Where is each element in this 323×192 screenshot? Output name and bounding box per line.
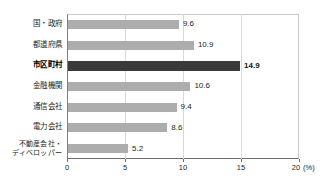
x-tick-mark-15: [241, 159, 242, 162]
x-tick-mark-0: [67, 159, 68, 162]
bar-2: [68, 61, 240, 71]
category-label-0: 国・政府: [0, 14, 65, 35]
category-label-1: 都道府県: [0, 35, 65, 56]
category-label-5: 電力会社: [0, 118, 65, 139]
bar-value-3: 10.6: [194, 82, 210, 90]
x-axis: 0 5 10 15 20 (%): [0, 159, 323, 179]
bar-value-2: 14.9: [244, 62, 260, 70]
bar-value-5: 8.6: [171, 124, 182, 132]
x-tick-label-10: 10: [179, 164, 187, 172]
bar-5: [68, 123, 167, 132]
bar-chart: 国・政府 都道府県 市区町村 金融機関 通信会社 電力会社 不動産会社・ ディベ…: [0, 0, 323, 192]
category-axis-labels: 国・政府 都道府県 市区町村 金融機関 通信会社 電力会社 不動産会社・ ディベ…: [0, 14, 65, 159]
bar-6: [68, 144, 128, 153]
bar-value-0: 9.6: [183, 20, 194, 28]
x-tick-label-5: 5: [123, 164, 127, 172]
bar-row-2: 14.9: [68, 55, 299, 76]
category-label-2: 市区町村: [0, 55, 65, 76]
x-tick-mark-10: [183, 159, 184, 162]
x-tick-label-0: 0: [65, 164, 69, 172]
bar-row-1: 10.9: [68, 35, 299, 56]
bar-4: [68, 103, 177, 112]
x-tick-mark-5: [125, 159, 126, 162]
bar-value-6: 5.2: [132, 145, 143, 153]
bar-1: [68, 41, 194, 50]
bar-row-3: 10.6: [68, 76, 299, 97]
x-tick-label-20: 20: [292, 164, 300, 172]
category-label-4: 通信会社: [0, 97, 65, 118]
bar-value-4: 9.4: [181, 103, 192, 111]
x-tick-mark-20: [299, 159, 300, 162]
category-label-3: 金融機関: [0, 76, 65, 97]
category-label-6: 不動産会社・ ディベロッパー: [0, 138, 65, 159]
x-tick-label-15: 15: [237, 164, 245, 172]
bar-0: [68, 20, 179, 29]
bar-row-5: 8.6: [68, 118, 299, 139]
bar-row-6: 5.2: [68, 138, 299, 159]
bar-row-0: 9.6: [68, 14, 299, 35]
bar-rows: 9.6 10.9 14.9 10.6 9.4 8.6 5.2: [68, 14, 299, 159]
bar-value-1: 10.9: [198, 41, 214, 49]
x-axis-unit-label: (%): [303, 164, 315, 172]
bar-3: [68, 82, 190, 91]
bar-row-4: 9.4: [68, 97, 299, 118]
